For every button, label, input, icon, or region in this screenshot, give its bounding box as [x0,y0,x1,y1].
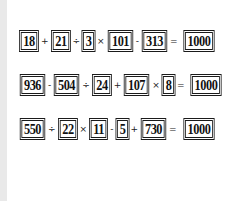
operator: ÷ [73,36,81,46]
operator: + [131,124,139,134]
result-box: 1000 [192,76,220,94]
math-puzzle: 18 + 21 ÷ 3 × 101 - 313 = 1000 936 - 504… [20,30,232,162]
equals-sign: = [170,36,178,46]
number-box: 107 [126,76,148,94]
number-box: 730 [143,120,165,138]
equation-row-1: 18 + 21 ÷ 3 × 101 - 313 = 1000 [20,30,232,52]
left-edge-strip [0,0,7,201]
operator: × [97,36,105,46]
number-box: 313 [143,32,165,50]
number-box: 5 [117,120,128,138]
number-box: 11 [91,120,107,138]
number-box: 936 [21,76,43,94]
result-box: 1000 [185,32,213,50]
number-box: 101 [109,32,131,50]
operator: ÷ [82,80,90,90]
operator: - [136,36,139,46]
number-box: 22 [59,120,75,138]
operator: + [41,36,49,46]
number-box: 3 [83,32,94,50]
operator: + [114,80,122,90]
operator: - [48,80,51,90]
number-box: 550 [21,120,43,138]
equals-sign: = [177,80,185,90]
operator: × [80,124,88,134]
equals-sign: = [169,124,177,134]
equation-row-3: 550 ÷ 22 × 11 - 5 + 730 = 1000 [20,118,232,140]
number-box: 21 [52,32,68,50]
number-box: 8 [163,76,174,94]
operator: × [152,80,160,90]
operator: ÷ [48,124,56,134]
result-box: 1000 [185,120,213,138]
equation-row-2: 936 - 504 ÷ 24 + 107 × 8 = 1000 [20,74,232,96]
operator: - [110,124,113,134]
number-box: 504 [56,76,78,94]
number-box: 18 [21,32,37,50]
number-box: 24 [94,76,110,94]
